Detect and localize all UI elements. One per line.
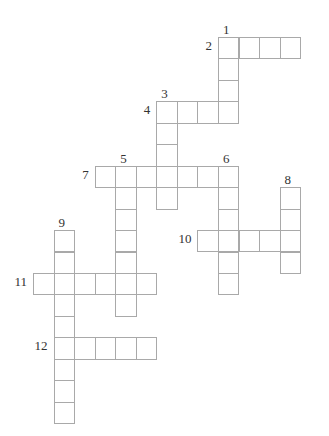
crossword-cell[interactable]: [218, 252, 240, 274]
crossword-cell[interactable]: [156, 123, 178, 145]
clue-number-4-across: 4: [144, 103, 151, 116]
crossword-cell[interactable]: [259, 230, 281, 252]
clue-number-7-across: 7: [82, 168, 89, 181]
crossword-cell[interactable]: [54, 294, 76, 316]
crossword-cell[interactable]: [156, 166, 178, 188]
crossword-cell[interactable]: [280, 37, 302, 59]
crossword-cell[interactable]: [177, 166, 199, 188]
crossword-cell[interactable]: [218, 101, 240, 123]
crossword-cell[interactable]: [280, 209, 302, 231]
clue-number-9-down: 9: [59, 216, 66, 229]
crossword-cell[interactable]: [115, 337, 137, 359]
crossword-cell[interactable]: [95, 273, 117, 295]
crossword-cell[interactable]: [115, 273, 137, 295]
crossword-cell[interactable]: [218, 230, 240, 252]
clue-number-5-down: 5: [120, 152, 127, 165]
crossword-cell[interactable]: [280, 230, 302, 252]
crossword-cell[interactable]: [280, 252, 302, 274]
crossword-cell[interactable]: [197, 101, 219, 123]
crossword-cell[interactable]: [218, 58, 240, 80]
crossword-cell[interactable]: [218, 166, 240, 188]
crossword-cell[interactable]: [115, 166, 137, 188]
crossword-cell[interactable]: [197, 230, 219, 252]
crossword-cell[interactable]: [239, 37, 261, 59]
clue-number-8-down: 8: [285, 173, 292, 186]
crossword-cell[interactable]: [156, 101, 178, 123]
crossword-cell[interactable]: [280, 187, 302, 209]
crossword-cell[interactable]: [136, 166, 158, 188]
crossword-cell[interactable]: [218, 80, 240, 102]
crossword-cell[interactable]: [74, 273, 96, 295]
clue-number-11-across: 11: [14, 275, 27, 288]
clue-number-10-across: 10: [178, 232, 191, 245]
crossword-grid: 123456789101112: [0, 0, 329, 436]
crossword-cell[interactable]: [54, 337, 76, 359]
clue-number-6-down: 6: [223, 152, 230, 165]
crossword-cell[interactable]: [136, 273, 158, 295]
crossword-cell[interactable]: [218, 209, 240, 231]
crossword-cell[interactable]: [218, 187, 240, 209]
crossword-cell[interactable]: [54, 316, 76, 338]
crossword-cell[interactable]: [156, 144, 178, 166]
clue-number-2-across: 2: [205, 39, 212, 52]
crossword-cell[interactable]: [136, 337, 158, 359]
crossword-cell[interactable]: [115, 294, 137, 316]
crossword-cell[interactable]: [115, 230, 137, 252]
crossword-cell[interactable]: [218, 37, 240, 59]
crossword-cell[interactable]: [54, 273, 76, 295]
crossword-cell[interactable]: [218, 273, 240, 295]
crossword-cell[interactable]: [115, 187, 137, 209]
crossword-cell[interactable]: [74, 337, 96, 359]
crossword-cell[interactable]: [54, 230, 76, 252]
crossword-cell[interactable]: [115, 209, 137, 231]
crossword-cell[interactable]: [54, 359, 76, 381]
clue-number-1-down: 1: [223, 23, 230, 36]
crossword-cell[interactable]: [95, 337, 117, 359]
crossword-cell[interactable]: [54, 402, 76, 424]
crossword-cell[interactable]: [54, 380, 76, 402]
crossword-cell[interactable]: [177, 101, 199, 123]
crossword-cell[interactable]: [156, 187, 178, 209]
crossword-cell[interactable]: [239, 230, 261, 252]
clue-number-3-down: 3: [161, 87, 168, 100]
crossword-cell[interactable]: [33, 273, 55, 295]
crossword-cell[interactable]: [197, 166, 219, 188]
clue-number-12-across: 12: [35, 339, 48, 352]
crossword-cell[interactable]: [259, 37, 281, 59]
crossword-cell[interactable]: [115, 252, 137, 274]
crossword-cell[interactable]: [95, 166, 117, 188]
crossword-cell[interactable]: [54, 252, 76, 274]
